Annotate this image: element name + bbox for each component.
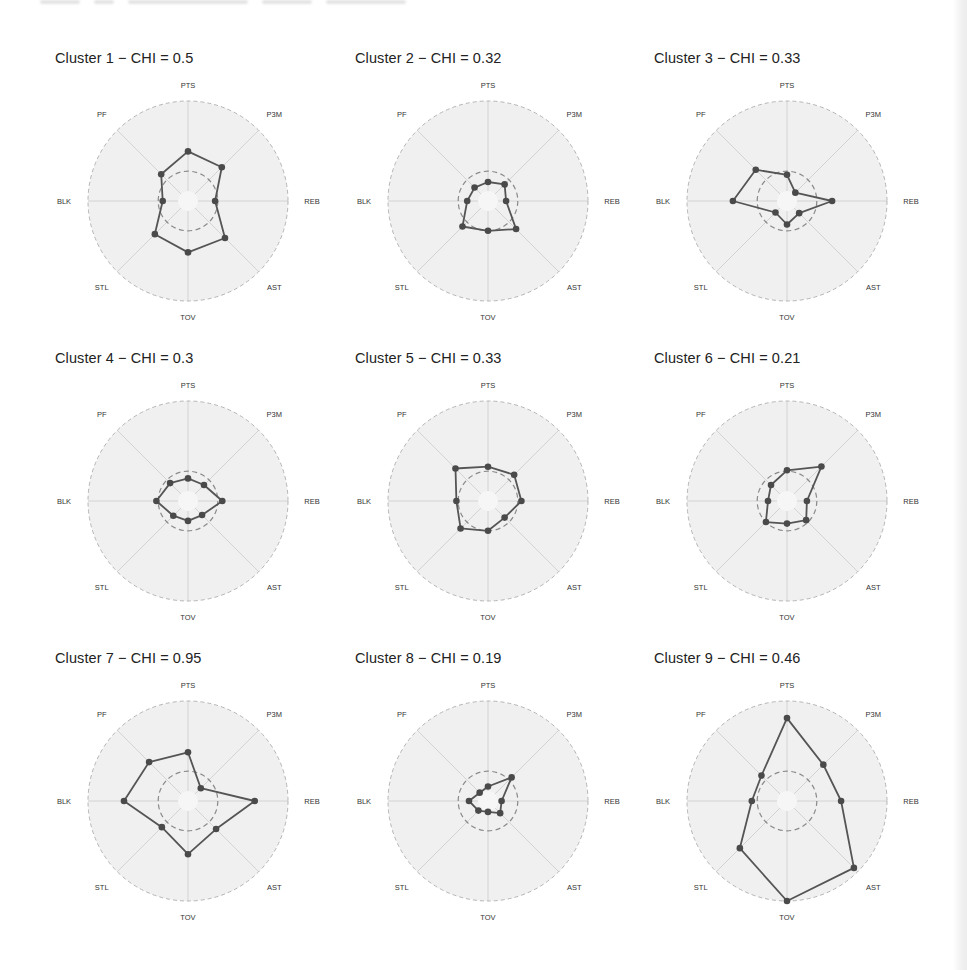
radar-panel-cluster-5: Cluster 5 − CHI = 0.33PTSP3MREBASTTOVSTL… — [338, 340, 638, 640]
axis-label-stl: STL — [95, 883, 109, 892]
data-point-tov — [485, 528, 492, 535]
data-point-tov — [185, 518, 192, 525]
axis-label-blk: BLK — [357, 197, 371, 206]
data-point-reb — [251, 798, 258, 805]
data-point-tov — [784, 898, 791, 905]
data-point-reb — [518, 498, 525, 505]
axis-label-p3m: P3M — [866, 110, 881, 119]
radar-chart: PTSP3MREBASTTOVSTLBLKPF — [38, 640, 338, 940]
axis-label-blk: BLK — [656, 797, 670, 806]
data-point-reb — [804, 498, 811, 505]
axis-label-tov: TOV — [180, 613, 195, 622]
data-point-p3m — [218, 164, 225, 171]
axis-label-tov: TOV — [480, 313, 495, 322]
data-point-pf — [452, 465, 459, 472]
data-point-pts — [784, 172, 791, 179]
data-point-blk — [765, 498, 772, 505]
axis-label-pts: PTS — [780, 381, 795, 390]
data-point-p3m — [820, 761, 827, 768]
data-point-reb — [829, 198, 836, 205]
data-point-reb — [503, 198, 510, 205]
data-point-reb — [219, 498, 226, 505]
axis-label-tov: TOV — [180, 313, 195, 322]
data-point-tov — [185, 851, 192, 858]
axis-label-pf: PF — [397, 110, 407, 119]
axis-label-reb: REB — [604, 197, 619, 206]
radar-chart: PTSP3MREBASTTOVSTLBLKPF — [637, 640, 937, 940]
data-point-stl — [763, 519, 770, 526]
data-point-pf — [752, 166, 759, 173]
axis-label-pf: PF — [97, 410, 107, 419]
radar-panel-cluster-7: Cluster 7 − CHI = 0.95PTSP3MREBASTTOVSTL… — [38, 640, 338, 940]
data-point-pf — [146, 759, 153, 766]
axis-label-reb: REB — [903, 497, 918, 506]
axis-label-tov: TOV — [180, 913, 195, 922]
data-point-reb — [212, 198, 219, 205]
data-point-pf — [758, 772, 765, 779]
data-point-stl — [772, 209, 779, 216]
axis-label-pts: PTS — [481, 681, 496, 690]
radar-panel-cluster-3: Cluster 3 − CHI = 0.33PTSP3MREBASTTOVSTL… — [637, 40, 937, 340]
data-point-stl — [152, 231, 159, 238]
axis-label-ast: AST — [267, 283, 282, 292]
data-point-tov — [485, 809, 492, 816]
data-point-stl — [475, 807, 482, 814]
axis-label-pf: PF — [97, 710, 107, 719]
axis-label-ast: AST — [567, 883, 582, 892]
data-point-stl — [737, 845, 744, 852]
data-point-ast — [803, 517, 810, 524]
axis-label-tov: TOV — [779, 613, 794, 622]
axis-label-p3m: P3M — [567, 710, 582, 719]
axis-label-p3m: P3M — [567, 410, 582, 419]
axis-label-blk: BLK — [357, 497, 371, 506]
data-point-reb — [838, 798, 845, 805]
data-point-pf — [158, 171, 165, 178]
radar-chart: PTSP3MREBASTTOVSTLBLKPF — [38, 40, 338, 340]
center-circle — [178, 491, 198, 511]
data-point-pts — [485, 463, 492, 470]
radar-chart: PTSP3MREBASTTOVSTLBLKPF — [338, 340, 638, 640]
data-point-pf — [471, 184, 478, 191]
data-point-blk — [453, 498, 460, 505]
axis-label-tov: TOV — [480, 913, 495, 922]
data-point-p3m — [508, 774, 515, 781]
window-edge-shadow — [953, 0, 967, 970]
data-point-pts — [485, 179, 492, 186]
axis-label-stl: STL — [95, 283, 109, 292]
radar-chart: PTSP3MREBASTTOVSTLBLKPF — [38, 340, 338, 640]
axis-label-pf: PF — [696, 110, 706, 119]
axis-label-reb: REB — [304, 197, 319, 206]
radar-panel-cluster-8: Cluster 8 − CHI = 0.19PTSP3MREBASTTOVSTL… — [338, 640, 638, 940]
axis-label-pf: PF — [97, 110, 107, 119]
radar-chart: PTSP3MREBASTTOVSTLBLKPF — [637, 340, 937, 640]
data-point-tov — [784, 221, 791, 228]
cut-off-figure-heading — [40, 0, 440, 4]
data-point-pts — [485, 783, 492, 790]
center-circle — [478, 491, 498, 511]
axis-label-ast: AST — [866, 883, 881, 892]
data-point-stl — [170, 512, 177, 519]
data-point-blk — [159, 198, 166, 205]
radar-panel-cluster-2: Cluster 2 − CHI = 0.32PTSP3MREBASTTOVSTL… — [338, 40, 638, 340]
radar-panel-cluster-4: Cluster 4 − CHI = 0.3PTSP3MREBASTTOVSTLB… — [38, 340, 338, 640]
data-point-reb — [498, 798, 505, 805]
axis-label-tov: TOV — [779, 913, 794, 922]
data-point-tov — [784, 520, 791, 527]
center-circle — [178, 191, 198, 211]
data-point-ast — [222, 235, 229, 242]
data-point-tov — [485, 228, 492, 235]
radar-chart: PTSP3MREBASTTOVSTLBLKPF — [338, 40, 638, 340]
axis-label-pts: PTS — [181, 681, 196, 690]
data-point-pf — [768, 482, 775, 489]
axis-label-blk: BLK — [57, 797, 71, 806]
center-circle — [478, 191, 498, 211]
axis-label-pf: PF — [696, 410, 706, 419]
data-point-ast — [513, 226, 520, 233]
axis-label-blk: BLK — [656, 197, 670, 206]
axis-label-ast: AST — [567, 283, 582, 292]
data-point-p3m — [197, 785, 204, 792]
axis-label-ast: AST — [866, 283, 881, 292]
axis-label-p3m: P3M — [267, 110, 282, 119]
data-point-p3m — [511, 472, 518, 479]
data-point-p3m — [818, 463, 825, 470]
